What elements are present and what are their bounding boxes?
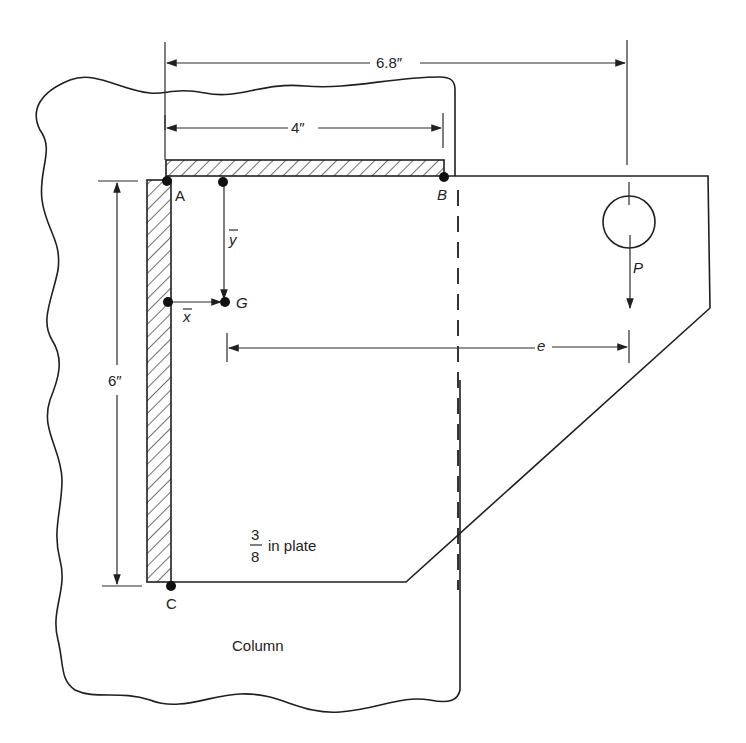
- point-top-centroid: [218, 177, 228, 187]
- bracket-diagram: 6.8″ 4″ 6″ y x e P A B G C 3 8 in plate …: [0, 0, 746, 743]
- label-g: G: [236, 294, 248, 311]
- x-bar-label: x: [182, 308, 191, 325]
- dim-6-8-label: 6.8″: [376, 54, 403, 71]
- dim-e-label: e: [537, 337, 545, 354]
- label-a: A: [175, 187, 185, 204]
- point-b: [439, 172, 449, 182]
- weld-vertical: [147, 180, 171, 582]
- label-c: C: [166, 595, 177, 612]
- point-a: [162, 176, 172, 186]
- plate-label: in plate: [268, 537, 316, 554]
- plate-fraction-num: 3: [251, 526, 259, 543]
- plate-fraction-den: 8: [251, 548, 259, 565]
- dim-6-label: 6″: [108, 372, 122, 389]
- load-label: P: [633, 259, 643, 276]
- point-c: [166, 581, 176, 591]
- label-b: B: [437, 186, 447, 203]
- column-label: Column: [232, 637, 284, 654]
- dim-4-label: 4″: [291, 119, 305, 136]
- y-bar-label: y: [228, 231, 238, 248]
- weld-top: [166, 160, 444, 176]
- bracket-plate-outline: [172, 176, 710, 582]
- point-g: [220, 297, 230, 307]
- point-side-centroid: [163, 297, 173, 307]
